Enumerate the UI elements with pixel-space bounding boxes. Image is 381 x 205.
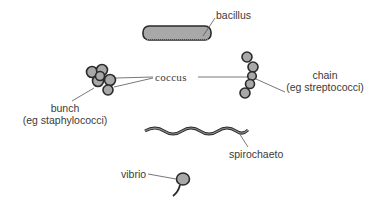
label-chain: chain [278,69,372,81]
label-bunch: bunch [15,102,115,114]
vibrio-leader [148,174,176,179]
label-vibrio: vibrio [121,168,146,180]
label-coccus: coccus [155,71,187,83]
vibrio-shape [173,173,190,196]
bunch-leader [72,88,94,101]
label-bunch-group: bunch (eg staphylococci) [15,102,115,126]
label-bunch-example: (eg staphylococci) [15,114,115,126]
staphylococci-bunch-shape [87,65,116,96]
label-spirochaete: spirochaeto [229,148,283,160]
label-chain-group: chain (eg streptococci) [278,69,372,93]
label-chain-example: (eg streptococci) [278,81,372,93]
label-bacillus: bacillus [216,9,251,21]
spirochaete-leader [239,133,248,147]
streptococci-chain-shape [240,52,258,98]
bacillus-shape [143,26,211,40]
